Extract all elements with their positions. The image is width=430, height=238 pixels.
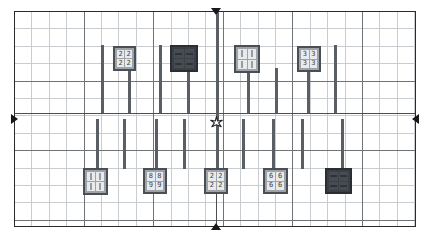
grid-line-major-horizontal <box>14 81 416 82</box>
sign-bottom-2[interactable]: 8899 <box>143 168 167 194</box>
sign-cell: 2 <box>125 59 132 67</box>
sign-top-3[interactable] <box>234 45 260 73</box>
sign-cell: 3 <box>301 50 309 59</box>
sign-cell: 2 <box>217 182 225 191</box>
sign-cell <box>339 172 348 181</box>
grid-line-vertical <box>240 11 241 227</box>
sign-cell <box>96 182 104 191</box>
sign-cell: 9 <box>156 182 164 191</box>
grid-line-major-vertical <box>362 11 363 227</box>
grid-line-vertical <box>188 11 189 227</box>
pole <box>123 119 126 169</box>
sign-cell <box>87 172 95 181</box>
pole <box>187 68 190 113</box>
pole <box>307 68 310 113</box>
grid-line-vertical <box>310 11 311 227</box>
plot-area: 22223333889922226666 <box>14 11 416 227</box>
grid-line-vertical <box>49 11 50 227</box>
sign-cell: 2 <box>217 172 225 181</box>
grid-line-vertical <box>345 11 346 227</box>
sign-bottom-1[interactable] <box>83 168 108 195</box>
sign-cell: 3 <box>310 60 318 69</box>
sign-top-1[interactable]: 2222 <box>113 46 136 71</box>
sign-cell <box>174 59 184 68</box>
sign-cell <box>96 172 104 181</box>
sign-cell <box>329 182 338 191</box>
pole <box>96 119 99 169</box>
sign-top-2[interactable] <box>170 45 198 72</box>
sign-cell <box>339 182 348 191</box>
grid-line-horizontal <box>14 133 416 134</box>
sign-top-4[interactable]: 3333 <box>297 46 321 72</box>
sign-cell: 6 <box>276 182 284 191</box>
pole <box>128 68 131 113</box>
pole <box>216 11 219 121</box>
pole <box>155 119 158 169</box>
pole <box>341 119 344 169</box>
pole <box>183 119 186 169</box>
origin-star-icon <box>210 114 223 127</box>
grid-line-vertical <box>136 11 137 227</box>
grid-line-vertical <box>275 11 276 227</box>
grid-line-vertical <box>327 11 328 227</box>
sign-cell: 2 <box>117 50 124 58</box>
grid-line-major-horizontal <box>14 220 416 221</box>
pole <box>101 45 104 113</box>
sign-cell: 6 <box>267 182 275 191</box>
pole <box>159 45 162 113</box>
sign-cell: 8 <box>147 172 155 181</box>
grid-line-major-vertical <box>292 11 293 227</box>
pole <box>275 68 278 113</box>
sign-cell: 2 <box>208 172 216 181</box>
sign-cell: 6 <box>276 172 284 181</box>
sign-cell <box>87 182 95 191</box>
right-marker-icon <box>412 114 419 124</box>
sign-cell <box>238 60 247 70</box>
diagram-canvas: 22223333889922226666 <box>0 0 430 238</box>
sign-cell: 8 <box>156 172 164 181</box>
sign-cell: 6 <box>267 172 275 181</box>
sign-cell <box>248 49 257 59</box>
grid-line-horizontal <box>14 63 416 64</box>
grid-line-vertical <box>258 11 259 227</box>
grid-line-vertical <box>118 11 119 227</box>
sign-cell: 2 <box>117 59 124 67</box>
pole <box>272 119 275 169</box>
sign-bottom-5[interactable] <box>325 168 352 194</box>
pole <box>301 119 304 169</box>
grid-line-vertical <box>31 11 32 227</box>
sign-bottom-4[interactable]: 6666 <box>263 168 288 194</box>
sign-cell <box>329 172 338 181</box>
grid-line-horizontal <box>14 28 416 29</box>
bottom-marker-icon <box>211 223 221 230</box>
sign-cell: 2 <box>125 50 132 58</box>
pole <box>334 45 337 113</box>
sign-cell: 3 <box>310 50 318 59</box>
grid-line-horizontal <box>14 202 416 203</box>
grid-line-horizontal <box>14 98 416 99</box>
sign-cell <box>185 49 195 58</box>
grid-line-vertical <box>171 11 172 227</box>
sign-cell: 2 <box>208 182 216 191</box>
grid-line-major-vertical <box>223 11 224 227</box>
sign-bottom-3[interactable]: 2222 <box>204 168 228 194</box>
grid-line-vertical <box>66 11 67 227</box>
grid-line-major-vertical <box>153 11 154 227</box>
sign-cell: 9 <box>147 182 155 191</box>
sign-cell <box>238 49 247 59</box>
top-marker-icon <box>211 8 221 15</box>
grid-line-vertical <box>205 11 206 227</box>
sign-cell <box>248 60 257 70</box>
sign-cell <box>185 59 195 68</box>
grid-line-horizontal <box>14 46 416 47</box>
grid-line-vertical <box>379 11 380 227</box>
grid-line-major-horizontal <box>14 150 416 151</box>
pole <box>242 119 245 169</box>
sign-cell: 3 <box>301 60 309 69</box>
sign-cell <box>174 49 184 58</box>
grid-line-vertical <box>397 11 398 227</box>
left-marker-icon <box>11 114 18 124</box>
